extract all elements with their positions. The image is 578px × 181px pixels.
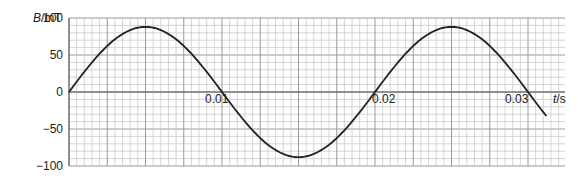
x-axis-label: t/s [553, 92, 566, 106]
y-tick-minus-100: −100 [36, 159, 63, 173]
x-tick-0.02: 0.02 [372, 92, 396, 106]
y-tick-minus-50: −50 [43, 122, 64, 136]
y-tick-50: 50 [50, 48, 64, 62]
chart: B/mT 100 50 0 −50 −100 0.01 0.02 0.03 t/… [0, 0, 578, 181]
x-tick-0.03: 0.03 [505, 92, 529, 106]
y-tick-0: 0 [56, 85, 63, 99]
x-tick-0.01: 0.01 [205, 92, 229, 106]
y-tick-100: 100 [43, 11, 63, 25]
